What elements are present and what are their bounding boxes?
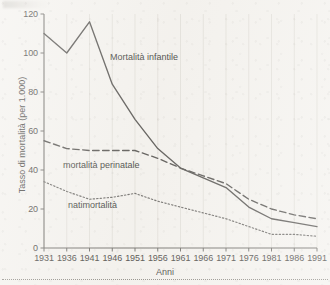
y-tick-label: 0 [12, 243, 38, 253]
chart-canvas [0, 0, 330, 285]
x-tick-label: 1991 [302, 253, 330, 263]
x-axis-title: Anni [0, 267, 330, 277]
series-label-natimortalita: natimortalità [68, 200, 117, 210]
scan-smudge [3, 1, 49, 8]
y-tick-label: 120 [12, 9, 38, 19]
series-label-mortalita-infantile: Mortalità infantile [110, 52, 178, 62]
y-axis-title: Tasso di mortalità (per 1.000) [17, 45, 27, 225]
series-label-mortalita-perinatale: mortalità perinatale [63, 160, 140, 170]
line-chart-figure: 120 100 80 60 40 20 0 193119361941194619… [0, 0, 330, 285]
bottom-dotted-rule [2, 279, 328, 280]
